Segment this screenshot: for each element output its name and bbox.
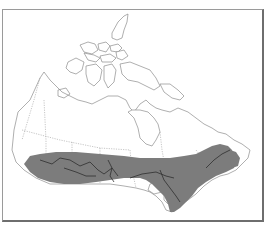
mainland xyxy=(12,72,250,212)
arctic-islands xyxy=(58,14,184,100)
shaded-range xyxy=(24,144,240,212)
canada-map xyxy=(0,0,271,230)
